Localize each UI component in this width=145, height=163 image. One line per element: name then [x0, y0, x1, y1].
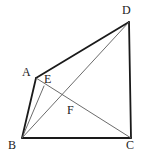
- vertex-label-A: A: [22, 66, 31, 78]
- vertex-label-E: E: [44, 73, 51, 85]
- segment-BA: [22, 78, 36, 138]
- segment-AD: [36, 22, 129, 78]
- interior-lines: [22, 22, 131, 138]
- vertex-label-D: D: [122, 4, 131, 16]
- vertex-label-F: F: [67, 104, 74, 116]
- geometry-figure: A B C D E F: [0, 0, 145, 163]
- vertex-label-C: C: [126, 139, 134, 151]
- segment-DC: [129, 22, 131, 138]
- segment-BD: [22, 22, 129, 138]
- vertex-label-B: B: [8, 139, 16, 151]
- figure-canvas: [0, 0, 145, 163]
